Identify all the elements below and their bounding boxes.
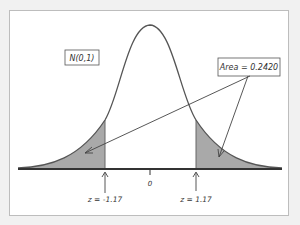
left-z-label: z = -1.17 [87,195,123,204]
right-tail-shade [196,120,282,169]
left-pointer-arrow [85,76,250,153]
bell-curve [18,25,282,168]
area-label: Area = 0.2420 [219,63,278,72]
right-z-label: z = 1.17 [179,195,212,204]
center-tick-label: 0 [148,180,153,188]
left-tail-shade [18,120,105,169]
normal-curve-diagram: 0 N(0,1) Area = 0.2420 z = -1.17 z = 1.1… [0,0,300,225]
distribution-label: N(0,1) [70,54,95,63]
